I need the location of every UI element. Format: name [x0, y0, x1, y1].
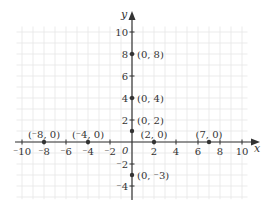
y-axis-arrow-icon [129, 11, 136, 20]
coordinate-plane: x y 0 ⁻10⁻8⁻6⁻4⁻2246810108642⁻2⁻4 (0, 8)… [0, 0, 276, 212]
plotted-point [42, 140, 46, 144]
x-tick-label: 8 [217, 146, 223, 157]
point-label: (⁻8, 0) [28, 129, 60, 140]
point-label: (0, 2) [137, 115, 164, 126]
x-tick-label: 2 [151, 146, 157, 157]
x-tick-label: ⁻8 [38, 146, 50, 157]
y-tick-label: 4 [122, 93, 128, 104]
point-label: (0, 8) [137, 49, 164, 60]
plotted-point [130, 96, 134, 100]
y-tick-label: ⁻2 [116, 159, 128, 170]
x-tick-label: ⁻2 [104, 146, 116, 157]
origin-label: 0 [122, 145, 129, 156]
y-tick-label: 8 [122, 49, 128, 60]
point-label: (2, 0) [141, 129, 168, 140]
point-label: (0, ⁻3) [137, 170, 169, 181]
plotted-point [130, 52, 134, 56]
y-tick-label: ⁻4 [116, 181, 128, 192]
x-tick-label: ⁻10 [13, 146, 31, 157]
plotted-point [207, 140, 211, 144]
plotted-point [86, 140, 90, 144]
plotted-point [130, 173, 134, 177]
plotted-point [152, 140, 156, 144]
y-tick-label: 2 [122, 115, 128, 126]
x-axis-label: x [254, 142, 261, 155]
x-tick-label: 10 [236, 146, 249, 157]
y-tick-label: 6 [122, 71, 128, 82]
y-axis-label: y [120, 8, 128, 21]
x-tick-label: ⁻6 [60, 146, 72, 157]
point-label: (0, 4) [137, 93, 164, 104]
plotted-point [130, 129, 134, 133]
point-label: (⁻4, 0) [72, 129, 104, 140]
point-label: (7, 0) [196, 129, 223, 140]
x-tick-label: 4 [173, 146, 179, 157]
x-tick-label: 6 [195, 146, 201, 157]
y-tick-label: 10 [115, 27, 128, 38]
x-tick-label: ⁻4 [82, 146, 94, 157]
